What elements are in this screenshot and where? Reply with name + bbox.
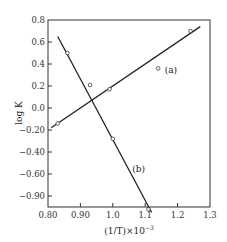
data-point: [156, 67, 160, 71]
x-axis: 0.800.901.01.11.21.3: [39, 203, 217, 220]
data-point: [56, 122, 60, 126]
log-k-vs-inverse-temperature-chart: 0.800.901.01.11.21.3 0.80.60.40.20.0−0.2…: [0, 0, 227, 242]
data-point: [108, 88, 112, 92]
x-tick-label: 1.3: [203, 210, 217, 220]
y-axis-label: log K: [14, 101, 24, 125]
y-tick-label: 0.2: [31, 81, 45, 91]
data-point: [66, 51, 70, 55]
x-tick-label: 0.90: [71, 210, 90, 220]
y-tick-label: −0.90: [19, 191, 45, 201]
y-tick-label: −0.40: [19, 147, 45, 157]
data-point: [189, 29, 193, 33]
series-label: (a): [165, 65, 177, 75]
data-point: [88, 83, 92, 87]
y-tick-label: 0.4: [31, 59, 45, 69]
y-tick-label: −0.20: [19, 125, 45, 135]
y-tick-label: 0.0: [31, 103, 45, 113]
data-point: [111, 137, 115, 141]
y-tick-label: −0.60: [19, 169, 45, 179]
x-axis-label: (1/T)×10−3: [104, 224, 154, 236]
series-label: (b): [132, 164, 145, 174]
fit-line: [58, 37, 152, 213]
x-tick-label: 0.80: [39, 210, 58, 220]
fit-line: [51, 27, 200, 128]
data-series: [51, 27, 200, 213]
x-tick-label: 1.0: [106, 210, 120, 220]
y-tick-label: 0.6: [31, 37, 45, 47]
y-tick-label: 0.8: [31, 15, 45, 25]
x-tick-label: 1.2: [171, 210, 185, 220]
data-point: [147, 207, 151, 211]
x-tick-label: 1.1: [138, 210, 152, 220]
series-annotations: (a)(b): [132, 65, 177, 174]
